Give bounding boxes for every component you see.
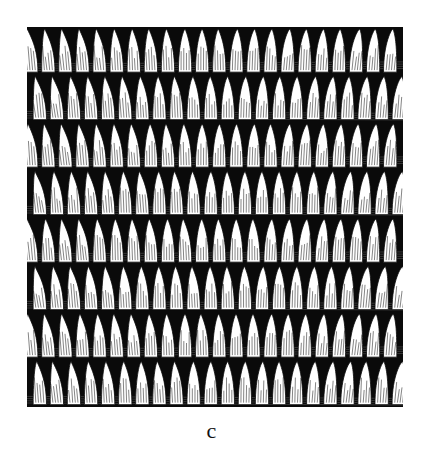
basketry-illustration [27,27,403,407]
figure-caption: c [0,418,423,444]
